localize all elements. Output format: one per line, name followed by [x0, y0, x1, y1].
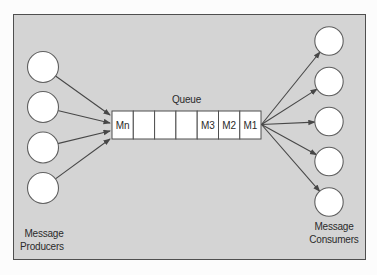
queue-title: Queue: [172, 94, 202, 105]
consumer-node: [315, 27, 343, 55]
producer-node: [28, 52, 59, 83]
producer-node: [28, 132, 59, 163]
producers-caption-line2: Producers: [20, 241, 64, 252]
producer-node: [28, 173, 59, 204]
consumers-caption-line2: Consumers: [309, 234, 359, 245]
queue-cell-label: M3: [201, 120, 215, 131]
queue-cell: [176, 111, 197, 139]
producer-node: [28, 92, 59, 123]
queue: Mn M3 M2 M1: [112, 111, 261, 139]
consumer-node: [315, 147, 343, 175]
queue-cell-label: M1: [244, 120, 258, 131]
queue-cell: [155, 111, 176, 139]
queue-cell-label: Mn: [116, 120, 130, 131]
consumers-caption-line1: Message: [314, 221, 354, 232]
queue-cell: [133, 111, 154, 139]
producers-caption-line1: Message: [24, 228, 64, 239]
message-queue-diagram: Queue Mn M3 M2 M1 Message Producers: [0, 0, 377, 275]
queue-cell-label: M2: [222, 120, 236, 131]
consumer-node: [315, 188, 343, 216]
consumer-node: [315, 67, 343, 95]
consumer-node: [315, 107, 343, 135]
